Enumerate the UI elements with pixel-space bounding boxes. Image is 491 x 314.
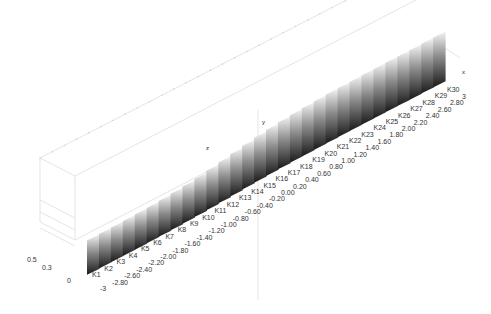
category-axis-labels: K1K2K3K4K5K6K7K8K9K10K11K12K13K14K15K16K… — [92, 86, 460, 278]
category-label-k29: K29 — [435, 92, 448, 99]
category-label-k3: K3 — [116, 258, 125, 265]
x-tick-label: 2.80 — [450, 99, 464, 106]
x-tick-label: -0.60 — [245, 208, 261, 215]
x-tick-label: -2.80 — [112, 279, 128, 286]
x-tick-label: 0.80 — [329, 163, 343, 170]
category-label-k19: K19 — [312, 156, 325, 163]
category-label-k7: K7 — [165, 233, 174, 240]
x-tick-label: -2.40 — [136, 266, 152, 273]
axis-name-y: y — [262, 119, 265, 125]
x-tick-label: 1.60 — [378, 138, 392, 145]
x-tick-label: -2.20 — [148, 259, 164, 266]
category-label-k6: K6 — [153, 239, 162, 246]
x-tick-label: -1.20 — [209, 227, 225, 234]
category-label-k23: K23 — [361, 131, 374, 138]
x-tick-label: 1.00 — [341, 157, 355, 164]
x-tick-label: -1.40 — [197, 234, 213, 241]
category-label-k14: K14 — [251, 188, 264, 195]
x-tick-label: 1.20 — [353, 151, 367, 158]
category-label-k13: K13 — [239, 194, 252, 201]
category-label-k18: K18 — [300, 163, 313, 170]
x-tick-label: -1.00 — [221, 221, 237, 228]
x-tick-label: 2.20 — [414, 119, 428, 126]
x-tick-label: 0.60 — [317, 170, 331, 177]
x-tick-label: 2.00 — [402, 125, 416, 132]
x-tick-label: -2.00 — [160, 253, 176, 260]
x-tick-label: 0.20 — [293, 183, 307, 190]
category-label-k16: K16 — [276, 175, 289, 182]
x-tick-label: 2.40 — [426, 112, 440, 119]
category-label-k17: K17 — [288, 169, 301, 176]
x-tick-label: 1.80 — [390, 131, 404, 138]
category-label-k12: K12 — [227, 201, 240, 208]
x-tick-label: 2.60 — [438, 106, 452, 113]
x-tick-label: 0.40 — [305, 176, 319, 183]
category-label-k21: K21 — [337, 143, 350, 150]
category-label-k24: K24 — [374, 124, 387, 131]
x-tick-label: -0.80 — [233, 215, 249, 222]
category-label-k15: K15 — [263, 182, 276, 189]
ribbon-surface — [87, 32, 446, 275]
z-tick-label: 0 — [67, 277, 71, 284]
category-label-k2: K2 — [104, 265, 113, 272]
x-tick-label: -1.60 — [184, 240, 200, 247]
category-label-k22: K22 — [349, 137, 362, 144]
category-label-k26: K26 — [398, 112, 411, 119]
axis-name-z: z — [206, 145, 209, 151]
x-tick-label: 1.40 — [365, 144, 379, 151]
x-tick-label: -0.20 — [269, 195, 285, 202]
z-tick-label: 0.5 — [27, 256, 37, 263]
category-label-k8: K8 — [178, 226, 187, 233]
x-tick-label: -1.80 — [172, 247, 188, 254]
category-label-k30: K30 — [447, 86, 460, 93]
ribbon-chart: K1K2K3K4K5K6K7K8K9K10K11K12K13K14K15K16K… — [0, 0, 491, 314]
category-label-k27: K27 — [410, 105, 423, 112]
axis-name-x: x — [462, 69, 465, 75]
category-label-k20: K20 — [325, 150, 338, 157]
x-tick-label: -2.60 — [124, 272, 140, 279]
category-label-k1: K1 — [92, 271, 101, 278]
z-tick-label: 0.3 — [42, 264, 52, 271]
x-tick-label: -3 — [100, 285, 106, 292]
category-label-k4: K4 — [129, 252, 138, 259]
x-tick-label: 0.00 — [281, 189, 295, 196]
category-label-k28: K28 — [423, 99, 436, 106]
x-tick-label: -0.40 — [257, 202, 273, 209]
x-tick-label: 3 — [462, 93, 466, 100]
category-label-k10: K10 — [202, 214, 215, 221]
category-label-k9: K9 — [190, 220, 199, 227]
category-label-k11: K11 — [214, 207, 226, 214]
category-label-k5: K5 — [141, 245, 150, 252]
z-axis-tick-labels: 00.30.5 — [27, 256, 71, 284]
category-label-k25: K25 — [386, 118, 399, 125]
